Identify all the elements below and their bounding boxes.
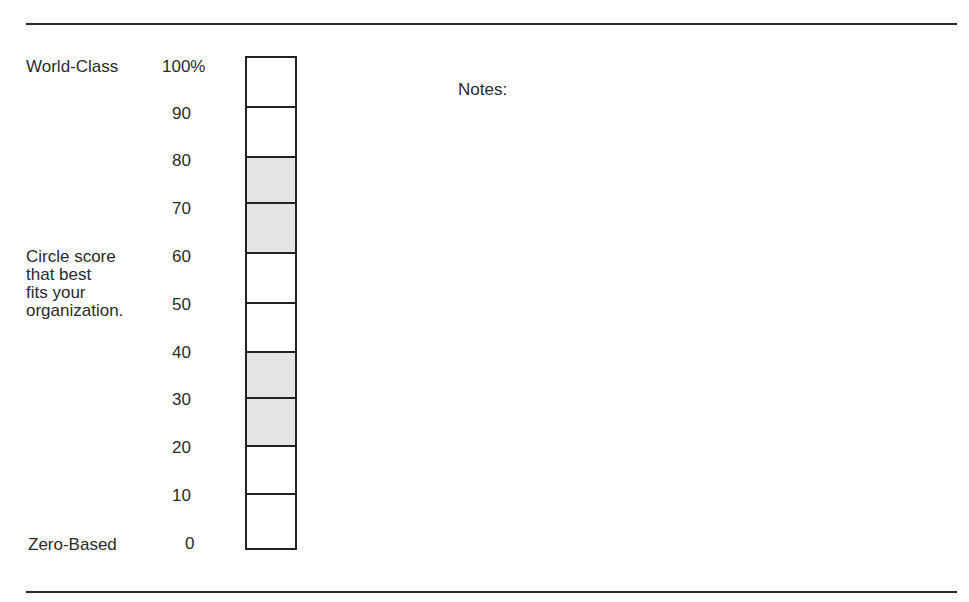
tick-100: 100% [162, 57, 218, 76]
score-cell-10-20[interactable] [245, 445, 297, 495]
top-rule [26, 23, 957, 25]
zero-based-label: Zero-Based [28, 535, 117, 554]
tick-70: 70 [172, 199, 220, 218]
tick-40: 40 [172, 343, 220, 362]
score-cell-50-60[interactable] [245, 252, 297, 304]
tick-80: 80 [172, 151, 220, 170]
score-cell-80-90[interactable] [245, 106, 297, 158]
instruction-line: organization. [26, 302, 123, 320]
instruction-line: fits your [26, 284, 123, 302]
instruction-line: Circle score [26, 248, 123, 266]
score-cell-0-10[interactable] [245, 493, 297, 550]
tick-20: 20 [172, 438, 220, 457]
tick-10: 10 [172, 486, 220, 505]
score-cell-70-80[interactable] [245, 156, 297, 204]
tick-30: 30 [172, 390, 220, 409]
bottom-rule [26, 591, 957, 593]
score-cell-90-100[interactable] [245, 56, 297, 108]
tick-60: 60 [172, 247, 220, 266]
score-scale [245, 56, 297, 550]
instruction-text: Circle score that best fits your organiz… [26, 248, 123, 320]
tick-50: 50 [172, 295, 220, 314]
notes-label: Notes: [458, 80, 507, 99]
score-cell-20-30[interactable] [245, 397, 297, 447]
score-cell-40-50[interactable] [245, 302, 297, 353]
world-class-label: World-Class [26, 57, 118, 76]
score-cell-30-40[interactable] [245, 351, 297, 399]
instruction-line: that best [26, 266, 123, 284]
tick-0: 0 [185, 534, 233, 553]
score-cell-60-70[interactable] [245, 202, 297, 254]
tick-90: 90 [172, 104, 220, 123]
